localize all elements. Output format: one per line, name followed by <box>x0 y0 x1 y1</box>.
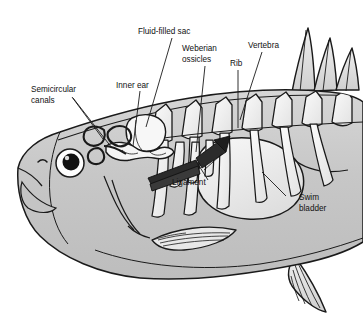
label-fluid-filled-sac: Fluid-filled sac <box>138 27 190 36</box>
label-swim-bladder-line1: Swim <box>299 193 319 202</box>
label-ligament: Ligament <box>172 178 206 187</box>
label-semicircular-canals-line1: Semicircular <box>31 85 76 94</box>
label-inner-ear: Inner ear <box>116 81 149 90</box>
eye-highlight <box>65 156 69 160</box>
label-swim-bladder-line2: bladder <box>299 204 327 213</box>
pupil <box>63 154 80 171</box>
fish-anatomy-diagram: Semicircular canals Inner ear Fluid-fill… <box>0 0 363 331</box>
label-vertebra: Vertebra <box>248 41 279 50</box>
label-rib: Rib <box>230 59 243 68</box>
label-weberian-ossicles-line1: Weberian <box>182 44 217 53</box>
dorsal-fin <box>292 28 359 92</box>
pelvic-fin <box>289 258 326 312</box>
label-weberian-ossicles-line2: ossicles <box>182 55 211 64</box>
label-semicircular-canals-line2: canals <box>31 96 55 105</box>
